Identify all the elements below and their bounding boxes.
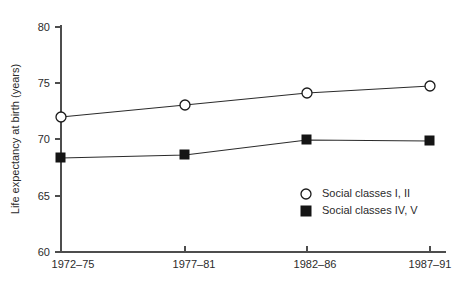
series-2-point-0 [56, 153, 65, 162]
series-2-point-1 [180, 150, 189, 159]
y-tick-label-70: 70 [38, 133, 50, 145]
series-social-classes-iv-v [56, 135, 434, 162]
series-2-point-2 [302, 135, 311, 144]
axes-group [61, 25, 446, 252]
series-social-classes-i-ii [56, 81, 435, 122]
x-tick-label-3: 1987–91 [409, 258, 452, 270]
x-tick-label-0: 1972–75 [52, 258, 95, 270]
legend-entry-0: Social classes I, II [301, 187, 410, 199]
chart-canvas: 80 75 70 65 60 1972–75 1977–81 1982–86 1… [0, 0, 460, 288]
y-tick-labels: 80 75 70 65 60 [38, 21, 50, 258]
x-tick-label-2: 1982–86 [294, 258, 337, 270]
chart-legend: Social classes I, II Social classes IV, … [301, 187, 418, 216]
y-tick-label-75: 75 [38, 77, 50, 89]
series-1-point-3 [425, 81, 435, 91]
line-chart-figure: 80 75 70 65 60 1972–75 1977–81 1982–86 1… [0, 0, 460, 288]
y-axis-title: Life expectancy at birth (years) [9, 64, 21, 214]
series-2-line [61, 140, 430, 158]
legend-entry-1: Social classes IV, V [301, 204, 418, 216]
x-tick-label-1: 1977–81 [173, 258, 216, 270]
legend-filled-square-icon [301, 206, 311, 216]
series-1-line [61, 86, 430, 117]
series-2-point-3 [425, 136, 434, 145]
y-tick-label-80: 80 [38, 21, 50, 33]
series-1-point-1 [180, 100, 190, 110]
legend-label-0: Social classes I, II [322, 187, 410, 199]
y-tick-label-65: 65 [38, 190, 50, 202]
series-1-point-0 [56, 112, 66, 122]
series-1-point-2 [302, 88, 312, 98]
legend-label-1: Social classes IV, V [322, 204, 418, 216]
x-tick-labels: 1972–75 1977–81 1982–86 1987–91 [52, 258, 452, 270]
legend-open-circle-icon [301, 189, 311, 199]
x-tick-marks [61, 246, 430, 252]
y-tick-label-60: 60 [38, 246, 50, 258]
y-tick-marks [55, 27, 61, 252]
